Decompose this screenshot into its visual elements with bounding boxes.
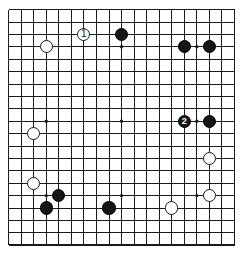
star-point <box>45 194 48 197</box>
stone-white[interactable] <box>165 201 178 214</box>
stone-black[interactable] <box>115 28 128 41</box>
move-stone-black[interactable]: 2 <box>178 115 191 128</box>
star-point <box>195 45 198 48</box>
go-board-figure: 12 <box>0 0 246 258</box>
star-point <box>195 194 198 197</box>
star-point <box>120 120 123 123</box>
star-point <box>120 45 123 48</box>
stone-black[interactable] <box>203 115 216 128</box>
stone-white[interactable] <box>27 177 40 190</box>
move-number-label: 1 <box>81 29 87 39</box>
star-point <box>120 194 123 197</box>
star-point <box>45 120 48 123</box>
star-point <box>195 120 198 123</box>
stone-black[interactable] <box>102 201 115 214</box>
stone-black[interactable] <box>40 201 53 214</box>
move-number-label: 2 <box>182 116 187 125</box>
stone-white[interactable] <box>203 152 216 165</box>
